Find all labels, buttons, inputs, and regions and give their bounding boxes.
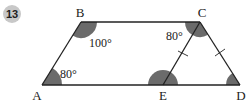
angle-label-A: 80° (60, 67, 77, 81)
problem-number-badge: 13 (3, 5, 21, 23)
vertex-label-D: D (236, 88, 245, 103)
vertex-label-C: C (198, 5, 207, 20)
vertex-label-E: E (159, 88, 167, 103)
segment-CD (200, 22, 240, 85)
geometry-figure: 13 B C A E D 100° 80° 80° (0, 0, 250, 103)
angle-label-C: 80° (166, 29, 183, 43)
angle-label-B: 100° (89, 36, 112, 50)
vertex-label-A: A (32, 88, 42, 103)
angle-marker-A (42, 68, 62, 85)
vertex-label-B: B (76, 5, 85, 20)
angle-marker-E (148, 70, 178, 85)
tick-mark-CD (215, 49, 225, 56)
problem-number: 13 (6, 8, 18, 20)
